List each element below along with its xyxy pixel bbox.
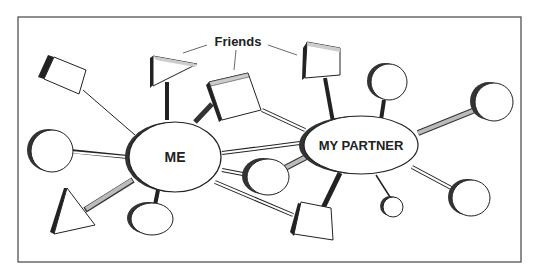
me-label: ME bbox=[165, 149, 186, 165]
me-node: ME bbox=[125, 122, 221, 192]
friend-triangle-node bbox=[150, 56, 197, 88]
circle-shared-middle-node bbox=[242, 158, 289, 195]
friends-label: Friends bbox=[215, 34, 262, 49]
box-top-left-node bbox=[38, 55, 86, 94]
small-circle-below-partner-node bbox=[380, 196, 403, 217]
circle-bottom-right-node bbox=[448, 179, 490, 216]
circle-right-node bbox=[470, 82, 513, 121]
circle-top-partner-node bbox=[367, 63, 407, 100]
friend-box-top-right-node bbox=[302, 42, 340, 80]
box-shared-bottom-node bbox=[290, 202, 333, 240]
network-diagram: ME MY PARTNER Friends bbox=[0, 0, 539, 276]
circle-left-node bbox=[27, 129, 73, 172]
partner-node: MY PARTNER bbox=[299, 116, 418, 174]
circle-below-me-node bbox=[127, 202, 173, 235]
friend-box-center-node bbox=[206, 73, 261, 122]
partner-label: MY PARTNER bbox=[319, 138, 404, 153]
